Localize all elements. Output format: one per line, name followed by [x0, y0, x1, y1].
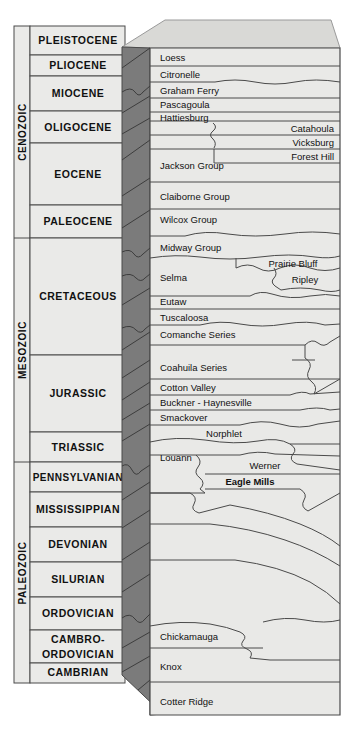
period-label-devonian: DEVONIAN: [48, 538, 107, 550]
unit-label-ripley: Ripley: [292, 274, 319, 285]
block-top-face: [122, 20, 340, 48]
era-label-paleozoic: PALEOZOIC: [17, 542, 28, 605]
unit-label-prairie-bluff: Prairie Bluff: [269, 258, 318, 269]
unit-label-buckner-haynesville: Buckner - Haynesville: [160, 397, 252, 408]
unit-label-eagle-mills: Eagle Mills: [225, 476, 274, 487]
unit-label-jackson-group: Jackson Group: [160, 160, 224, 171]
unit-label-knox: Knox: [160, 661, 182, 672]
unit-label-loess: Loess: [160, 52, 186, 63]
period-label-silurian: SILURIAN: [51, 573, 105, 585]
unit-label-louann: Louann: [160, 452, 192, 463]
unit-label-forest-hill: Forest Hill: [291, 151, 334, 162]
unit-label-cotton-valley: Cotton Valley: [160, 382, 216, 393]
period-label-cretaceous: CRETACEOUS: [39, 290, 117, 302]
unit-label-wilcox-group: Wilcox Group: [160, 214, 217, 225]
unit-label-hattiesburg: Hattiesburg: [160, 112, 209, 123]
period-label-pliocene: PLIOCENE: [49, 59, 107, 71]
period-label-mississippian: MISSISSIPPIAN: [36, 503, 120, 515]
period-label-ordovician: ORDOVICIAN: [42, 607, 114, 619]
unit-label-midway-group: Midway Group: [160, 242, 221, 253]
unit-label-tuscaloosa: Tuscaloosa: [160, 312, 209, 323]
unit-label-chickamauga: Chickamauga: [160, 631, 219, 642]
unit-label-eutaw: Eutaw: [160, 296, 187, 307]
unit-label-vicksburg: Vicksburg: [292, 137, 334, 148]
period-label-eocene: EOCENE: [54, 168, 101, 180]
period-label-pennsylvanian: PENNSYLVANIAN: [33, 472, 124, 483]
era-label-cenozoic: CENOZOIC: [17, 103, 28, 161]
period-label-jurassic: JURASSIC: [49, 387, 106, 399]
period-label-pleistocene: PLEISTOCENE: [38, 34, 117, 46]
period-label-miocene: MIOCENE: [52, 87, 105, 99]
stratigraphic-block-diagram: CENOZOIC MESOZOIC PALEOZOIC PLEISTOCENE …: [0, 0, 354, 735]
period-label-cambrian: CAMBRIAN: [47, 666, 108, 678]
unit-label-pascagoula: Pascagoula: [160, 99, 210, 110]
period-label-paleocene: PALEOCENE: [43, 215, 112, 227]
unit-label-citronelle: Citronelle: [160, 69, 200, 80]
period-label-triassic: TRIASSIC: [51, 441, 104, 453]
unit-label-catahoula: Catahoula: [291, 123, 335, 134]
period-label-cambro: CAMBRO-: [51, 633, 105, 645]
unit-label-selma: Selma: [160, 272, 188, 283]
period-label-cambro-ordovician: ORDOVICIAN: [42, 648, 114, 660]
unit-label-graham-ferry: Graham Ferry: [160, 85, 219, 96]
unit-label-werner: Werner: [250, 460, 281, 471]
unit-label-claiborne-group: Claiborne Group: [160, 191, 230, 202]
era-period-chart: CENOZOIC MESOZOIC PALEOZOIC PLEISTOCENE …: [14, 26, 125, 683]
period-label-oligocene: OLIGOCENE: [44, 121, 112, 133]
unit-label-smackover: Smackover: [160, 412, 208, 423]
unit-label-cotter-ridge: Cotter Ridge: [160, 696, 213, 707]
unit-label-comanche-series: Comanche Series: [160, 329, 236, 340]
unit-label-norphlet: Norphlet: [206, 428, 242, 439]
unit-label-coahuila-series: Coahuila Series: [160, 362, 227, 373]
era-label-mesozoic: MESOZOIC: [17, 321, 28, 379]
